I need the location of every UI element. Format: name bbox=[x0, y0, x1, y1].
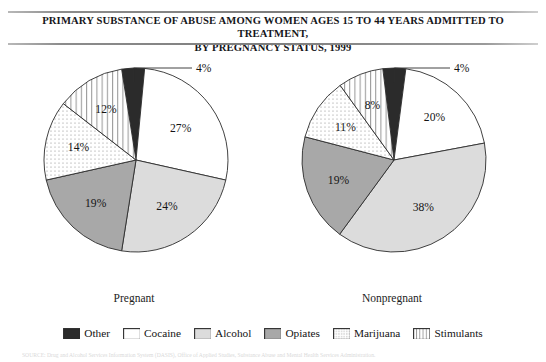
pie-caption-nonpregnant: Nonpregnant bbox=[292, 292, 492, 304]
title-rule-bottom bbox=[8, 43, 538, 45]
pie-value-label-stimulants: 12% bbox=[95, 103, 117, 116]
pie-value-label-stimulants: 8% bbox=[365, 99, 381, 112]
pie-chart-nonpregnant-svg: 20%38%19%11%8% 4% bbox=[292, 62, 502, 290]
pie-slices-pregnant bbox=[44, 68, 228, 252]
legend-item-cocaine[interactable]: Cocaine bbox=[123, 327, 181, 339]
legend-swatch-alcohol bbox=[194, 328, 211, 339]
pie-value-label-other: 4% bbox=[454, 62, 470, 75]
legend-label-alcohol: Alcohol bbox=[215, 327, 251, 339]
page-title: PRIMARY SUBSTANCE OF ABUSE AMONG WOMEN A… bbox=[12, 14, 534, 54]
legend-item-opiates[interactable]: Opiates bbox=[264, 327, 320, 339]
legend-label-opiates: Opiates bbox=[285, 327, 320, 339]
legend-swatch-other bbox=[63, 328, 80, 339]
page-title-line-1: PRIMARY SUBSTANCE OF ABUSE AMONG WOMEN A… bbox=[42, 15, 504, 39]
source-note: SOURCE: Drug and Alcohol Services Inform… bbox=[22, 352, 532, 362]
pie-value-label-other: 4% bbox=[196, 62, 212, 75]
pie-caption-pregnant: Pregnant bbox=[34, 292, 234, 304]
pie-chart-nonpregnant: 20%38%19%11%8% 4% bbox=[292, 62, 502, 290]
pie-value-label-alcohol: 38% bbox=[413, 201, 435, 214]
pie-value-label-alcohol: 24% bbox=[156, 200, 178, 213]
legend-item-alcohol[interactable]: Alcohol bbox=[194, 327, 251, 339]
legend-swatch-marijuana bbox=[333, 328, 350, 339]
legend-item-marijuana[interactable]: Marijuana bbox=[333, 327, 400, 339]
legend-swatch-opiates bbox=[264, 328, 281, 339]
pie-value-label-cocaine: 20% bbox=[424, 111, 446, 124]
title-rule-top bbox=[8, 11, 538, 13]
pie-value-label-marijuana: 14% bbox=[68, 141, 90, 154]
pie-value-label-cocaine: 27% bbox=[170, 122, 192, 135]
legend-label-stimulants: Stimulants bbox=[434, 327, 482, 339]
pie-value-label-opiates: 19% bbox=[328, 174, 350, 187]
legend-label-marijuana: Marijuana bbox=[354, 327, 400, 339]
legend-item-stimulants[interactable]: Stimulants bbox=[413, 327, 482, 339]
legend-label-cocaine: Cocaine bbox=[144, 327, 181, 339]
legend-swatch-stimulants bbox=[413, 328, 430, 339]
pie-value-label-opiates: 19% bbox=[85, 197, 107, 210]
pie-chart-pregnant: 27%24%19%14%12% 4% bbox=[34, 62, 244, 290]
chart-legend: OtherCocaineAlcoholOpiatesMarijuanaStimu… bbox=[0, 327, 546, 339]
pie-value-label-marijuana: 11% bbox=[335, 121, 356, 134]
pie-chart-pregnant-svg: 27%24%19%14%12% 4% bbox=[34, 62, 244, 290]
legend-label-other: Other bbox=[84, 327, 110, 339]
legend-item-other[interactable]: Other bbox=[63, 327, 110, 339]
pie-slices-nonpregnant bbox=[302, 68, 486, 252]
legend-swatch-cocaine bbox=[123, 328, 140, 339]
